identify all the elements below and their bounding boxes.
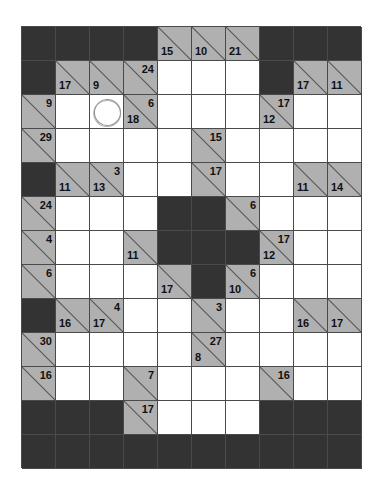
entry-cell[interactable] [226, 163, 260, 197]
across-clue-number: 3 [114, 166, 120, 177]
entry-cell[interactable] [158, 333, 192, 367]
across-clue-number: 17 [142, 404, 154, 415]
down-clue-number: 8 [195, 352, 201, 363]
clue-cell: 16 [294, 299, 328, 333]
clue-cell: 11 [294, 163, 328, 197]
down-clue-number: 12 [263, 114, 275, 125]
entry-cell[interactable] [226, 95, 260, 129]
entry-cell[interactable] [226, 367, 260, 401]
block-cell [90, 435, 124, 469]
entry-cell[interactable] [158, 299, 192, 333]
clue-cell: 29 [22, 129, 56, 163]
entry-cell[interactable] [158, 129, 192, 163]
clue-cell: 17 [158, 265, 192, 299]
across-clue-number: 4 [46, 234, 52, 245]
across-clue-number: 24 [40, 200, 52, 211]
entry-cell[interactable] [294, 367, 328, 401]
entry-cell[interactable] [90, 367, 124, 401]
entry-cell[interactable] [56, 129, 90, 163]
entry-cell[interactable] [294, 333, 328, 367]
entry-cell[interactable] [328, 95, 362, 129]
entry-cell[interactable] [226, 299, 260, 333]
entry-cell[interactable] [158, 95, 192, 129]
clue-cell: 17 [192, 163, 226, 197]
down-clue-number: 17 [161, 284, 173, 295]
entry-cell[interactable] [56, 197, 90, 231]
block-cell [226, 231, 260, 265]
entry-cell[interactable] [328, 129, 362, 163]
clue-cell: 278 [192, 333, 226, 367]
entry-cell[interactable] [328, 367, 362, 401]
entry-cell[interactable] [260, 265, 294, 299]
across-clue-number: 15 [210, 132, 222, 143]
down-clue-number: 16 [59, 318, 71, 329]
entry-cell[interactable] [294, 231, 328, 265]
clue-cell: 10 [192, 27, 226, 61]
clue-cell: 15 [158, 27, 192, 61]
entry-cell[interactable] [124, 197, 158, 231]
across-clue-number: 29 [40, 132, 52, 143]
entry-cell[interactable] [124, 163, 158, 197]
entry-cell[interactable] [56, 265, 90, 299]
block-cell [124, 435, 158, 469]
entry-cell[interactable] [124, 299, 158, 333]
entry-cell[interactable] [226, 129, 260, 163]
across-clue-number: 6 [250, 200, 256, 211]
entry-cell[interactable] [294, 265, 328, 299]
entry-cell[interactable] [294, 129, 328, 163]
clue-cell: 417 [90, 299, 124, 333]
entry-cell[interactable] [192, 401, 226, 435]
block-cell [260, 435, 294, 469]
entry-cell[interactable] [124, 129, 158, 163]
entry-cell[interactable] [124, 333, 158, 367]
block-cell [56, 27, 90, 61]
entry-cell[interactable] [124, 265, 158, 299]
entry-cell[interactable] [56, 333, 90, 367]
pen-circle-annotation [92, 97, 122, 127]
down-clue-number: 14 [331, 182, 343, 193]
entry-cell[interactable] [260, 129, 294, 163]
entry-cell[interactable] [192, 367, 226, 401]
entry-cell[interactable] [158, 61, 192, 95]
entry-cell[interactable] [56, 95, 90, 129]
entry-cell[interactable] [260, 197, 294, 231]
block-cell [56, 435, 90, 469]
entry-cell[interactable] [328, 265, 362, 299]
entry-cell[interactable] [158, 163, 192, 197]
block-cell [192, 231, 226, 265]
entry-cell[interactable] [294, 95, 328, 129]
entry-cell[interactable] [226, 401, 260, 435]
entry-cell[interactable] [56, 367, 90, 401]
entry-cell[interactable] [158, 367, 192, 401]
entry-cell[interactable] [90, 333, 124, 367]
block-cell [124, 27, 158, 61]
entry-cell[interactable] [260, 299, 294, 333]
across-clue-number: 17 [210, 166, 222, 177]
entry-cell[interactable] [328, 333, 362, 367]
block-cell [56, 401, 90, 435]
kakuro-grid[interactable]: 1510211792417119618171229151131317111424… [21, 26, 361, 468]
entry-cell[interactable] [90, 95, 124, 129]
entry-cell[interactable] [90, 265, 124, 299]
entry-cell[interactable] [260, 333, 294, 367]
entry-cell[interactable] [158, 401, 192, 435]
down-clue-number: 17 [331, 318, 343, 329]
entry-cell[interactable] [90, 231, 124, 265]
entry-cell[interactable] [192, 95, 226, 129]
entry-cell[interactable] [328, 231, 362, 265]
clue-cell: 21 [226, 27, 260, 61]
block-cell [294, 401, 328, 435]
entry-cell[interactable] [260, 163, 294, 197]
entry-cell[interactable] [192, 61, 226, 95]
entry-cell[interactable] [328, 197, 362, 231]
entry-cell[interactable] [90, 129, 124, 163]
entry-cell[interactable] [226, 61, 260, 95]
block-cell [158, 435, 192, 469]
down-clue-number: 13 [93, 182, 105, 193]
down-clue-number: 16 [297, 318, 309, 329]
entry-cell[interactable] [56, 231, 90, 265]
entry-cell[interactable] [294, 197, 328, 231]
entry-cell[interactable] [226, 333, 260, 367]
entry-cell[interactable] [90, 197, 124, 231]
clue-cell: 24 [124, 61, 158, 95]
